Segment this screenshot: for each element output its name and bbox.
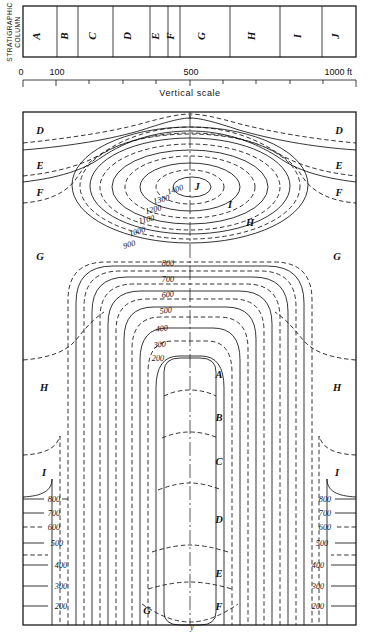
scale-ticks	[23, 80, 356, 87]
contour-upper-2-dash	[23, 127, 356, 176]
contour-i-lobe-right-2	[327, 479, 356, 625]
contour-g-boundary-right	[275, 312, 356, 360]
contour-left-label-lines-dash	[23, 527, 48, 555]
strat-unit-label: I	[291, 33, 303, 39]
contour-label: 200	[312, 602, 324, 611]
zone-label-c: C	[215, 456, 223, 467]
strat-unit-label: G	[195, 32, 207, 40]
scale-tick-label-0: 0	[18, 67, 23, 77]
edge-zone-label-h-right: H	[332, 382, 342, 393]
contour-label: 600	[319, 523, 331, 532]
contour-label: 800	[48, 495, 60, 504]
strat-column-header-line2: COLUMN	[14, 16, 21, 48]
vertical-scale-group: 0 100 500 1000 ft Vertical scale	[18, 67, 356, 98]
edge-zone-label-e-left: E	[35, 160, 43, 171]
contour-label: 700	[162, 275, 174, 284]
contour-label: 1400	[166, 183, 184, 197]
contour-label: 600	[161, 289, 174, 299]
contour-label: 400	[312, 561, 324, 570]
strat-column-header-line1: STRATIGRAPHIC	[6, 2, 13, 62]
edge-zone-label-h-left: H	[39, 382, 49, 393]
contour-label: 400	[55, 561, 67, 570]
contour-label: 800	[319, 495, 331, 504]
figure-svg: A B C D E F G H I J STRATIGRAPHIC COLUMN	[0, 0, 375, 636]
contour-label: 1100	[138, 214, 155, 226]
edge-zone-label-f-left: F	[35, 187, 43, 198]
scale-tick-label-1000: 1000 ft	[324, 67, 352, 77]
strat-column-group: A B C D E F G H I J STRATIGRAPHIC COLUMN	[6, 2, 356, 62]
zone-label-e: E	[214, 568, 222, 579]
contour-label: 1000	[128, 225, 146, 239]
strat-unit-labels: A B C D E F G H I J	[30, 31, 341, 41]
scale-tick-label-500: 500	[183, 67, 198, 77]
axis-endpoint-x: x	[187, 112, 192, 121]
vertical-scale-caption: Vertical scale	[159, 88, 220, 98]
contour-label: 700	[319, 509, 331, 518]
zone-label-i: I	[227, 199, 233, 210]
strat-unit-label: C	[86, 32, 98, 40]
contour-label: 800	[162, 259, 174, 268]
edge-zone-label-i-right: I	[334, 467, 340, 478]
edge-zone-labels-right: D E F G H I	[332, 125, 343, 478]
contour-label: 500	[159, 305, 172, 315]
edge-zone-label-d-right: D	[334, 125, 343, 136]
upper-contour-system: 1400 1300 1200 1100 1000 900 J I H	[23, 114, 356, 251]
scale-tick-label-100: 100	[49, 67, 64, 77]
strat-unit-label: B	[58, 32, 70, 40]
lower-left-contour-labels: 800 700 600 500 400 300 200	[48, 495, 67, 611]
edge-zone-label-f-right: F	[334, 187, 342, 198]
contour-label: 300	[152, 339, 166, 349]
contour-label: 900	[122, 239, 136, 251]
lower-right-contour-labels: 800 700 600 500 400 300 200	[311, 495, 331, 611]
contour-label: 300	[311, 582, 324, 591]
contour-label: 200	[152, 354, 164, 363]
strat-unit-label: F	[164, 32, 176, 41]
edge-zone-label-d-left: D	[35, 125, 44, 136]
lower-center-contour-labels: 800 700 600 500 400 300 200	[152, 259, 174, 363]
contour-label: 700	[48, 509, 60, 518]
zone-label-a: A	[214, 369, 222, 380]
axis-endpoint-y: y	[189, 623, 194, 632]
strat-unit-label: A	[30, 32, 42, 40]
edge-zone-label-e-right: E	[334, 160, 342, 171]
strat-unit-label: D	[121, 32, 133, 41]
zone-label-j: J	[193, 181, 200, 192]
contour-right-label-lines	[331, 499, 356, 606]
zone-label-d: D	[214, 514, 223, 525]
contour-label: 300	[54, 582, 67, 591]
edge-zone-label-i-left: I	[41, 467, 47, 478]
strat-unit-label: H	[245, 31, 257, 41]
edge-zone-label-g-left: G	[36, 251, 44, 262]
contour-label: 600	[48, 523, 60, 532]
zone-label-h: H	[245, 217, 255, 228]
strat-column-box	[23, 6, 356, 57]
figure-root: A B C D E F G H I J STRATIGRAPHIC COLUMN	[0, 0, 375, 636]
zone-label-b: B	[214, 412, 222, 423]
bottom-zone-label-g: G	[143, 605, 151, 616]
contour-label: 500	[51, 539, 63, 548]
strat-column-dividers	[57, 6, 322, 57]
contour-label: 500	[316, 539, 328, 548]
contour-label: 400	[155, 323, 168, 333]
edge-zone-label-g-right: G	[333, 251, 341, 262]
lower-contour-system: A B C D E F 800 700 600 500 400 300 200	[23, 259, 356, 625]
strat-unit-label: J	[329, 33, 341, 40]
contour-right-label-lines-dash	[331, 527, 356, 555]
strat-unit-label: E	[149, 32, 161, 40]
contour-plot-frame	[23, 112, 356, 625]
zone-label-f: F	[214, 601, 222, 612]
contour-upper-outer-solid	[23, 118, 356, 150]
contour-label: 200	[55, 602, 67, 611]
